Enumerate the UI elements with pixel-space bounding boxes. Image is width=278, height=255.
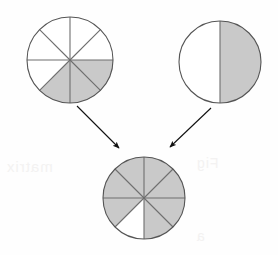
pie-sector-1-shaded bbox=[220, 21, 261, 103]
arrow-from-right-pie bbox=[170, 108, 211, 147]
pie-diagram-svg bbox=[0, 0, 278, 255]
top-left-pie bbox=[27, 17, 113, 103]
arrows-layer bbox=[77, 106, 211, 148]
top-right-pie bbox=[179, 21, 261, 103]
arrow-from-left-pie bbox=[77, 106, 119, 148]
figure-canvas: matrix Fig a bbox=[0, 0, 278, 255]
bottom-pie bbox=[103, 157, 185, 239]
pie-sector-2-empty bbox=[179, 21, 220, 103]
